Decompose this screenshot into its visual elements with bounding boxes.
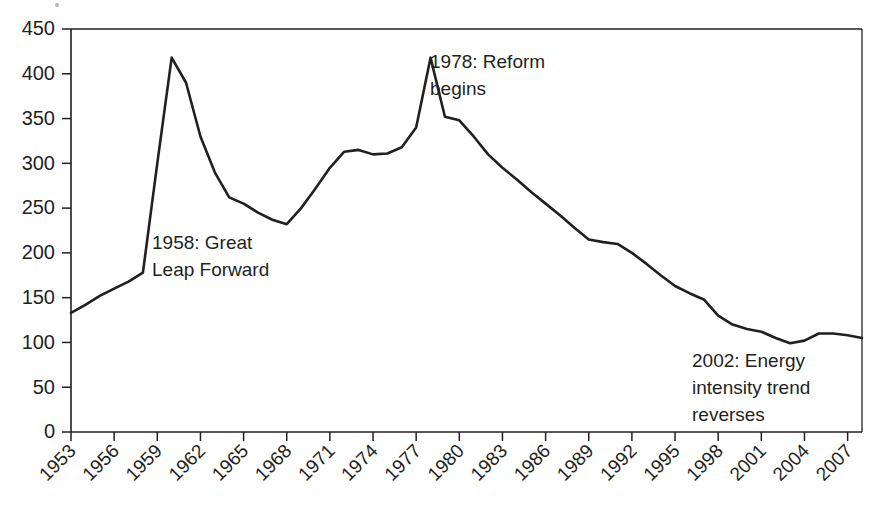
annotation-line: 1958: Great [152, 232, 253, 253]
annotation-line: 2002: Energy [692, 350, 806, 371]
annotation-line: Leap Forward [152, 259, 269, 280]
y-tick-label-150: 150 [22, 286, 55, 308]
y-tick-label-250: 250 [22, 196, 55, 218]
annotation-line: intensity trend [692, 377, 810, 398]
chart-canvas: 050100150200250300350400450 195319561959… [0, 0, 871, 505]
annotation-line: begins [430, 78, 486, 99]
y-tick-label-300: 300 [22, 152, 55, 174]
y-tick-label-0: 0 [44, 420, 55, 442]
energy-intensity-chart: 050100150200250300350400450 195319561959… [0, 0, 871, 505]
annotation-line: reverses [692, 404, 765, 425]
y-tick-label-100: 100 [22, 331, 55, 353]
y-tick-label-450: 450 [22, 17, 55, 39]
annotation-line: 1978: Reform [430, 51, 545, 72]
y-tick-label-50: 50 [33, 376, 55, 398]
scan-artifact-speck [55, 3, 59, 7]
y-tick-label-350: 350 [22, 107, 55, 129]
y-tick-label-400: 400 [22, 62, 55, 84]
y-tick-label-200: 200 [22, 241, 55, 263]
